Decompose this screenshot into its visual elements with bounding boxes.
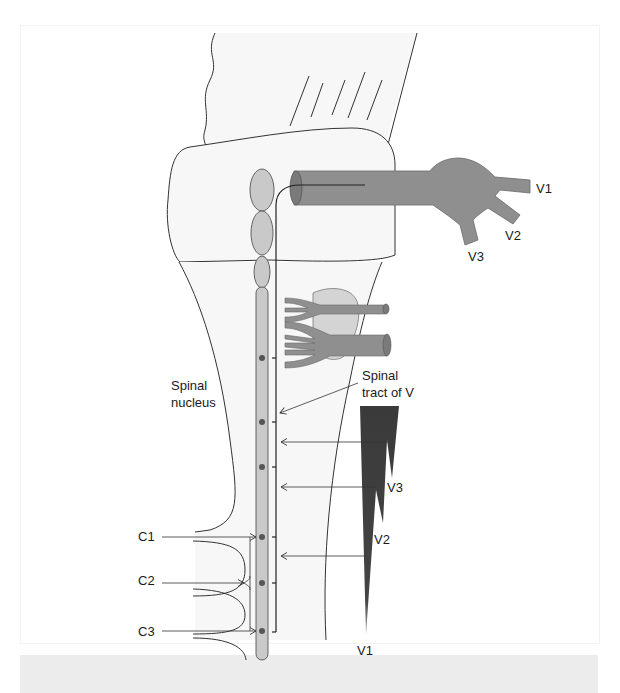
label-spinal-nucleus-1: Spinal xyxy=(171,378,207,393)
label-c1: C1 xyxy=(138,529,155,544)
label-dermatome-v2: V2 xyxy=(374,532,390,547)
label-c2: C2 xyxy=(138,573,155,588)
label-dermatome-v3: V3 xyxy=(387,480,403,495)
label-spinal-tract-1: Spinal xyxy=(362,368,398,383)
cervical-labels: C1 C2 C3 xyxy=(138,529,155,639)
label-c3: C3 xyxy=(138,624,155,639)
label-spinal-tract-2: tract of V xyxy=(362,385,414,400)
spinal-nucleus-label: Spinal nucleus xyxy=(171,378,216,410)
label-nerve-v1: V1 xyxy=(536,181,552,196)
label-nerve-v2: V2 xyxy=(505,228,521,243)
label-spinal-nucleus-2: nucleus xyxy=(171,395,216,410)
dermatome-wedges: V3 V2 V1 xyxy=(357,406,403,658)
trigeminal-pathway-diagram: V1 V2 V3 Spinal xyxy=(0,0,620,693)
label-nerve-v3: V3 xyxy=(468,249,484,264)
label-dermatome-v1: V1 xyxy=(357,643,373,658)
